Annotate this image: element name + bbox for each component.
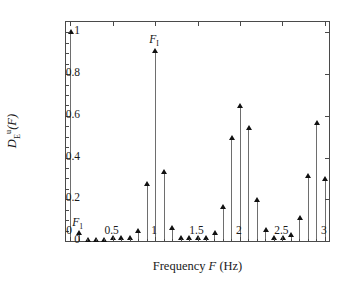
data-point-marker bbox=[237, 103, 243, 108]
x-axis-minor-tick bbox=[130, 239, 131, 242]
y-axis-minor-tick bbox=[66, 178, 69, 179]
y-axis-minor-tick bbox=[66, 220, 69, 221]
y-axis-tick bbox=[325, 241, 329, 242]
data-point-marker bbox=[144, 181, 150, 186]
x-axis-tick bbox=[282, 22, 283, 26]
y-axis-tick-label: 0.2 bbox=[66, 193, 80, 205]
data-point-marker bbox=[169, 225, 175, 230]
data-point-marker bbox=[314, 120, 320, 125]
stem-line bbox=[240, 106, 241, 241]
data-point-marker bbox=[288, 232, 294, 237]
y-axis-minor-tick bbox=[66, 147, 69, 148]
y-axis-minor-tick bbox=[66, 32, 69, 33]
y-axis-minor-tick bbox=[66, 95, 69, 96]
y-axis-tick bbox=[325, 158, 329, 159]
x-axis-tick bbox=[198, 22, 199, 26]
y-axis-minor-tick bbox=[66, 64, 69, 65]
data-point-marker bbox=[220, 204, 226, 209]
x-axis-minor-tick bbox=[240, 239, 241, 242]
data-point-marker bbox=[305, 173, 311, 178]
stem-line bbox=[147, 185, 148, 241]
x-axis-minor-tick bbox=[189, 239, 190, 242]
x-axis-minor-tick bbox=[265, 239, 266, 242]
y-axis-minor-tick bbox=[66, 189, 69, 190]
x-axis-tick bbox=[155, 22, 156, 26]
data-point-marker bbox=[135, 228, 141, 233]
stem-line bbox=[70, 32, 71, 241]
x-axis-tick bbox=[240, 22, 241, 26]
x-axis-tick-label: 1 bbox=[151, 225, 157, 237]
y-axis-minor-tick bbox=[66, 43, 69, 44]
data-point-marker bbox=[297, 215, 303, 220]
stem-line bbox=[257, 200, 258, 241]
y-axis-tick-label: 0.4 bbox=[66, 151, 80, 163]
x-axis-minor-tick bbox=[282, 239, 283, 242]
y-axis-tick bbox=[325, 74, 329, 75]
y-axis-tick bbox=[325, 199, 329, 200]
x-axis-minor-tick bbox=[172, 239, 173, 242]
y-axis-minor-tick bbox=[66, 210, 69, 211]
y-axis-minor-tick bbox=[66, 85, 69, 86]
x-axis-minor-tick bbox=[121, 239, 122, 242]
y-axis-tick-label: 0 bbox=[74, 234, 80, 246]
data-point-marker bbox=[254, 197, 260, 202]
x-axis-tick-label: 0 bbox=[66, 225, 72, 237]
y-axis-minor-tick bbox=[66, 137, 69, 138]
data-point-marker bbox=[161, 169, 167, 174]
data-point-marker bbox=[229, 135, 235, 140]
peak-annotation-1: F1 bbox=[72, 216, 83, 231]
stem-line bbox=[316, 123, 317, 241]
stem-line bbox=[223, 208, 224, 241]
x-axis-minor-tick bbox=[316, 239, 317, 242]
data-point-marker bbox=[246, 125, 252, 130]
data-point-marker bbox=[263, 227, 269, 232]
data-point-marker bbox=[322, 176, 328, 181]
x-axis-tick-label: 3 bbox=[321, 225, 327, 237]
x-axis-minor-tick bbox=[231, 239, 232, 242]
plot-frame bbox=[65, 21, 330, 242]
stem-line bbox=[231, 139, 232, 241]
y-axis-tick-label: 1 bbox=[74, 26, 80, 38]
x-axis-minor-tick bbox=[257, 239, 258, 242]
x-axis-minor-tick bbox=[198, 239, 199, 242]
peak-annotation-i: FI bbox=[149, 33, 159, 48]
y-axis-minor-tick bbox=[66, 241, 69, 242]
stem-line bbox=[164, 172, 165, 241]
x-axis-minor-tick bbox=[87, 239, 88, 242]
x-axis-minor-tick bbox=[214, 239, 215, 242]
data-point-marker bbox=[212, 230, 218, 235]
x-axis-minor-tick bbox=[138, 239, 139, 242]
y-axis-minor-tick bbox=[66, 168, 69, 169]
y-axis-tick-label: 0.8 bbox=[66, 67, 80, 79]
x-axis-tick-label: 0.5 bbox=[104, 225, 118, 237]
x-axis-minor-tick bbox=[223, 239, 224, 242]
y-axis-minor-tick bbox=[66, 126, 69, 127]
x-axis-tick bbox=[70, 22, 71, 26]
stem-line bbox=[248, 128, 249, 241]
plot-area bbox=[66, 22, 329, 241]
figure-stem-plot: Frequency F (Hz) DEu(F) 00.511.522.5300.… bbox=[0, 0, 350, 290]
x-axis-minor-tick bbox=[155, 239, 156, 242]
stem-line bbox=[155, 51, 156, 241]
x-axis-minor-tick bbox=[164, 239, 165, 242]
x-axis-minor-tick bbox=[274, 239, 275, 242]
x-axis-minor-tick bbox=[147, 239, 148, 242]
x-axis-minor-tick bbox=[308, 239, 309, 242]
y-axis-minor-tick bbox=[66, 53, 69, 54]
x-axis-minor-tick bbox=[299, 239, 300, 242]
x-axis-title: Frequency F (Hz) bbox=[65, 259, 330, 274]
x-axis-tick-label: 1.5 bbox=[189, 225, 203, 237]
y-axis-minor-tick bbox=[66, 105, 69, 106]
y-axis-tick bbox=[325, 116, 329, 117]
x-axis-tick-label: 2.5 bbox=[274, 225, 288, 237]
y-axis-title: DEu(F) bbox=[4, 114, 22, 148]
x-axis-tick-label: 2 bbox=[236, 225, 242, 237]
x-axis-tick bbox=[113, 22, 114, 26]
x-axis-minor-tick bbox=[248, 239, 249, 242]
y-axis-tick-label: 0.6 bbox=[66, 109, 80, 121]
stem-line bbox=[308, 176, 309, 241]
x-axis-minor-tick bbox=[181, 239, 182, 242]
x-axis-tick bbox=[325, 22, 326, 26]
x-axis-minor-tick bbox=[104, 239, 105, 242]
x-axis-minor-tick bbox=[70, 239, 71, 242]
